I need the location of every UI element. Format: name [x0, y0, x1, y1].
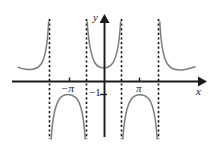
graph-canvas	[0, 0, 216, 149]
x-tick-label-neg-pi: −π	[61, 83, 74, 94]
y-axis-label: y	[93, 12, 98, 23]
branch-right-outer	[160, 22, 195, 70]
y-axis	[100, 14, 110, 137]
branch-neg-pi-inverted	[51, 95, 85, 139]
x-axis-label: x	[196, 86, 201, 97]
branch-pi-inverted	[123, 95, 157, 139]
y-axis-arrowhead	[100, 14, 110, 23]
graph-figure: y x −π π −1	[0, 0, 216, 149]
branch-left-outer	[18, 22, 49, 70]
y-tick-label-neg-one: −1	[89, 87, 101, 98]
x-tick-label-pi: π	[136, 83, 142, 94]
x-axis	[12, 77, 207, 87]
curve-group	[18, 22, 195, 139]
